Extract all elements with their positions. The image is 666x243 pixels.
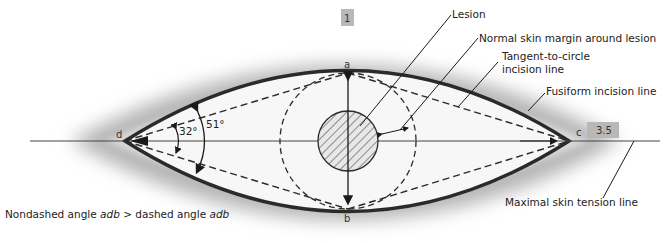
length-ratio: 3.5	[596, 125, 612, 136]
nondashed-angle-label: 51°	[206, 118, 225, 130]
point-c: c	[576, 127, 582, 138]
diagram-svg: 1 3.5 a b c d 32° 51° Lesion Normal skin…	[0, 0, 666, 243]
point-d: d	[116, 129, 122, 140]
margin-label: Normal skin margin around lesion	[479, 32, 656, 44]
tangent-label-2: incision line	[502, 63, 564, 75]
tension-label: Maximal skin tension line	[505, 196, 638, 208]
point-a: a	[344, 59, 350, 70]
point-b: b	[344, 213, 350, 224]
tangent-label-1: Tangent-to-circle	[501, 50, 590, 62]
diagram-canvas: 1 3.5 a b c d 32° 51° Lesion Normal skin…	[0, 0, 666, 243]
dashed-angle-label: 32°	[179, 125, 198, 137]
fusiform-label: Fusiform incision line	[546, 85, 656, 97]
width-ratio: 1	[344, 13, 350, 24]
lesion-label: Lesion	[452, 8, 486, 20]
caption: Nondashed angle adb > dashed angle adb	[5, 208, 230, 220]
